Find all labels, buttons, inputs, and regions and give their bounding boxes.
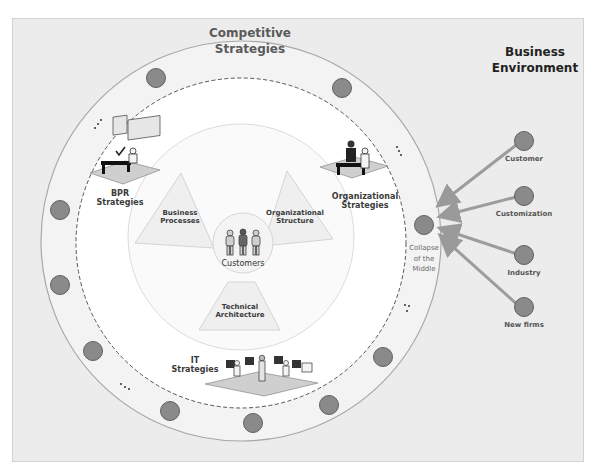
label-line: Middle	[404, 264, 444, 275]
title-line: Strategies	[200, 42, 300, 58]
ring-node	[161, 402, 180, 421]
env-node-industry	[515, 246, 534, 265]
env-label-customization: Customization	[489, 210, 559, 218]
label-line: Strategies	[170, 365, 220, 374]
label-line: Collapse	[404, 243, 444, 254]
label-line: of the	[404, 254, 444, 265]
ring-node	[333, 79, 352, 98]
it-strategies-label: IT Strategies	[170, 356, 220, 374]
collapse-of-the-middle-label: Collapse of the Middle	[404, 243, 444, 275]
competitive-strategies-title: Competitive Strategies	[200, 26, 300, 57]
ring-node	[374, 348, 393, 367]
technical-architecture-label: Technical Architecture	[210, 303, 270, 319]
label-line: Architecture	[210, 311, 270, 319]
label-line: Structure	[260, 217, 330, 225]
label-line: Technical	[210, 303, 270, 311]
title-line: Environment	[490, 60, 580, 76]
organizational-strategies-label: Organizational Strategies	[325, 192, 405, 210]
ring-node	[51, 201, 70, 220]
env-node-customization	[515, 187, 534, 206]
organizational-structure-label: Organizational Structure	[260, 209, 330, 225]
env-label-customer: Customer	[494, 155, 554, 163]
label-line: Strategies	[325, 201, 405, 210]
title-line: Competitive	[200, 26, 300, 42]
ring-node	[320, 396, 339, 415]
label-line: BPR	[90, 189, 150, 198]
label-line: Organizational	[325, 192, 405, 201]
env-node-new-firms	[515, 298, 534, 317]
label-line: Business	[150, 209, 210, 217]
ring-node	[51, 276, 70, 295]
business-environment-title: Business Environment	[490, 44, 580, 76]
env-node-customer	[515, 132, 534, 151]
collapse-node	[415, 216, 434, 235]
ring-node	[244, 414, 263, 433]
bpr-strategies-label: BPR Strategies	[90, 189, 150, 207]
label-line: Strategies	[90, 198, 150, 207]
label-line: Organizational	[260, 209, 330, 217]
label-line: IT	[170, 356, 220, 365]
env-label-new-firms: New firms	[494, 321, 554, 329]
customers-label: Customers	[213, 259, 273, 268]
environment-arrows	[440, 142, 520, 307]
ring-node	[84, 342, 103, 361]
ring-node	[147, 69, 166, 88]
title-line: Business	[490, 44, 580, 60]
business-processes-label: Business Processes	[150, 209, 210, 225]
label-line: Processes	[150, 217, 210, 225]
env-label-industry: Industry	[494, 269, 554, 277]
